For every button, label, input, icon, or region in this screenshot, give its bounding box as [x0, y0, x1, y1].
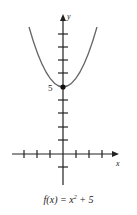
parabola-graph: 5 y x	[0, 0, 137, 215]
x-axis-label: x	[115, 159, 120, 168]
x-axis-arrow-icon	[112, 151, 119, 157]
caption-suffix: + 5	[77, 194, 94, 205]
caption-prefix: f(x) = x	[44, 194, 74, 205]
function-caption: f(x) = x2 + 5	[0, 194, 137, 205]
vertex-point	[60, 84, 65, 89]
y-axis-label: y	[66, 12, 71, 21]
vertex-label: 5	[48, 83, 53, 93]
y-axis-arrow-icon	[60, 14, 66, 21]
